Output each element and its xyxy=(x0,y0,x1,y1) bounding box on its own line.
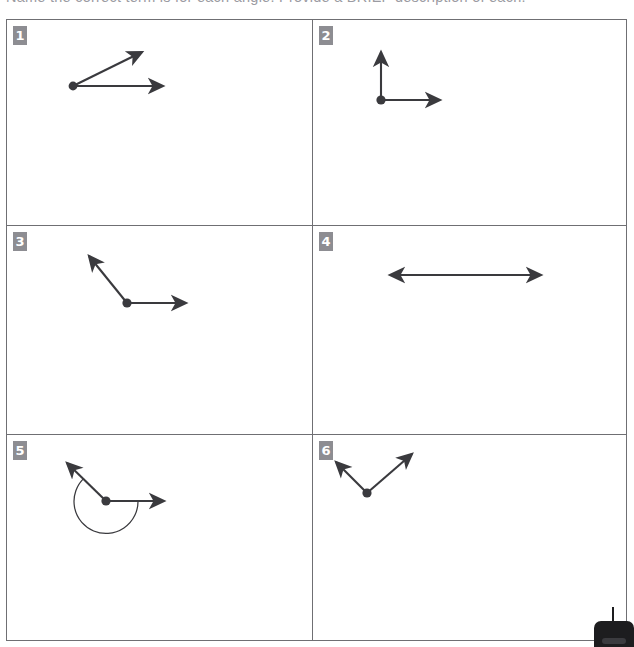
angle-rays-1 xyxy=(73,52,163,86)
worksheet-cell-4: 4 xyxy=(313,226,626,435)
angle-figure-4 xyxy=(313,226,626,434)
angle-vertex-5 xyxy=(101,496,110,505)
angle-vertex-1 xyxy=(69,82,78,91)
angle-vertex-3 xyxy=(122,298,131,307)
angle-rays-6 xyxy=(336,454,412,493)
angle-figure-2 xyxy=(313,20,626,225)
angle-vertex-6 xyxy=(362,488,371,497)
instruction-strip: Name the correct term is for each angle.… xyxy=(0,0,634,14)
angle-figure-1 xyxy=(7,20,312,225)
worksheet-grid: 1 2 xyxy=(6,19,627,641)
worksheet-cell-3: 3 xyxy=(7,226,313,435)
angle-rays-3 xyxy=(89,256,186,303)
worksheet-cell-1: 1 xyxy=(7,20,313,226)
worksheet-cell-2: 2 xyxy=(313,20,626,226)
angle-figure-5 xyxy=(7,435,312,640)
worksheet-cell-6: 6 xyxy=(313,435,626,640)
reflex-arc-5 xyxy=(74,478,138,533)
scanner-edge-artifact xyxy=(594,621,634,647)
angle-rays-5 xyxy=(67,463,164,501)
angle-vertex-2 xyxy=(376,95,385,104)
worksheet-cell-5: 5 xyxy=(7,435,313,640)
angle-rays-2 xyxy=(381,52,440,100)
angle-figure-3 xyxy=(7,226,312,434)
angle-figure-6 xyxy=(313,435,626,640)
instruction-text: Name the correct term is for each angle.… xyxy=(6,0,526,5)
